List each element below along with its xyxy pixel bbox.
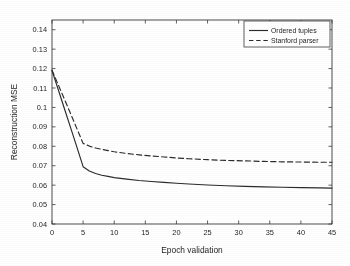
x-tick-label: 30	[235, 228, 243, 237]
y-tick-label: 0.14	[33, 25, 47, 34]
x-tick-label: 20	[172, 228, 180, 237]
legend-label-ordered-tuples: Ordered tuples	[271, 27, 317, 35]
series-stanford-parser	[52, 70, 332, 162]
x-tick-label: 35	[266, 228, 274, 237]
line-chart: 051015202530354045 0.040.050.060.070.080…	[0, 0, 350, 266]
x-tick-label: 0	[50, 228, 54, 237]
y-tick-label: 0.1	[37, 103, 47, 112]
legend-label-stanford-parser: Stanford parser	[271, 37, 319, 45]
legend: Ordered tuples Stanford parser	[244, 21, 330, 47]
x-tick-label: 10	[110, 228, 118, 237]
y-tick-label: 0.09	[33, 122, 47, 131]
figure-container: 051015202530354045 0.040.050.060.070.080…	[0, 0, 350, 266]
series-group	[52, 70, 332, 188]
y-tick-label: 0.08	[33, 142, 47, 151]
y-axis-ticks: 0.040.050.060.070.080.090.10.110.120.130…	[33, 25, 332, 228]
y-tick-label: 0.12	[33, 64, 47, 73]
y-tick-label: 0.13	[33, 45, 47, 54]
x-axis-title: Epoch validation	[161, 245, 223, 255]
y-tick-label: 0.11	[33, 84, 47, 93]
x-tick-label: 15	[141, 228, 149, 237]
y-tick-label: 0.04	[33, 220, 47, 229]
plot-frame	[52, 20, 332, 224]
x-tick-label: 5	[81, 228, 85, 237]
x-axis-ticks: 051015202530354045	[50, 20, 336, 237]
y-tick-label: 0.06	[33, 181, 47, 190]
series-ordered-tuples	[52, 71, 332, 189]
x-tick-label: 25	[203, 228, 211, 237]
y-tick-label: 0.05	[33, 200, 47, 209]
y-axis-title: Reconstruction MSE	[9, 83, 19, 160]
x-tick-label: 40	[297, 228, 305, 237]
y-tick-label: 0.07	[33, 161, 47, 170]
x-tick-label: 45	[328, 228, 336, 237]
